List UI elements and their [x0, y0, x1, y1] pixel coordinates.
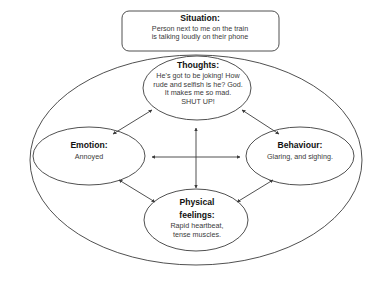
physical-feelings-title-line-2: feelings:: [143, 210, 251, 220]
behaviour-body-line-1: Glaring, and sighing.: [252, 153, 348, 161]
physical-feelings-label: Physical feelings: Rapid heartbeat, tens…: [143, 197, 251, 239]
arrow-thoughts-behaviour: [242, 110, 279, 134]
behaviour-title: Behaviour:: [252, 140, 348, 150]
thoughts-body-line-4: SHUT UP!: [138, 98, 258, 106]
emotion-body-line-1: Annoyed: [42, 153, 136, 161]
situation-label: Situation: Person next to me on the trai…: [124, 13, 276, 42]
behaviour-label: Behaviour: Glaring, and sighing.: [252, 140, 348, 161]
physical-feelings-body-line-2: tense muscles.: [143, 231, 251, 239]
cbt-diagram-canvas: Situation: Person next to me on the trai…: [0, 0, 389, 282]
thoughts-label: Thoughts: He's got to be joking! How rud…: [138, 60, 258, 106]
arrow-thoughts-emotion: [113, 110, 152, 134]
emotion-label: Emotion: Annoyed: [42, 140, 136, 161]
physical-feelings-title-line-1: Physical: [143, 197, 251, 207]
emotion-title: Emotion:: [42, 140, 136, 150]
situation-title: Situation:: [124, 13, 276, 23]
situation-body-line-2: is talking loudly on their phone: [124, 33, 276, 41]
thoughts-title: Thoughts:: [138, 60, 258, 70]
